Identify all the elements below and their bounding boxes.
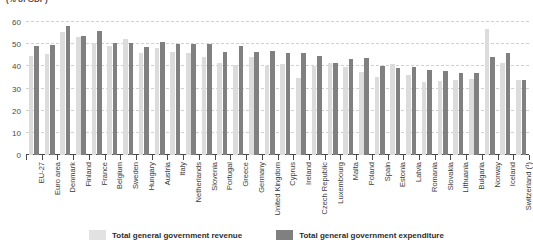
x-tick: [73, 155, 74, 160]
x-tick: [435, 155, 436, 160]
bar-group: [388, 22, 404, 155]
x-tick: [262, 155, 263, 160]
y-tick-label-50: 50: [12, 40, 21, 49]
x-axis-label: United Kingdom: [273, 109, 282, 162]
x-tick: [325, 155, 326, 160]
legend-label-expenditure: Total general government expenditure: [299, 231, 444, 240]
x-tick: [199, 155, 200, 160]
legend-swatch-expenditure: [276, 230, 293, 240]
x-tick: [246, 155, 247, 160]
y-tick-label-40: 40: [12, 62, 21, 71]
legend-item-expenditure[interactable]: Total general government expenditure: [276, 230, 444, 240]
bar-group: [167, 22, 183, 155]
x-tick: [309, 155, 310, 160]
x-tick: [372, 155, 373, 160]
x-tick: [498, 155, 499, 160]
bar-revenue: [29, 56, 34, 155]
x-tick: [183, 155, 184, 160]
y-tick-label-0: 0: [17, 151, 21, 160]
bar-group: [293, 22, 309, 155]
y-tick-label-10: 10: [12, 128, 21, 137]
x-tick: [230, 155, 231, 160]
bar-group: [26, 22, 42, 155]
x-tick: [26, 155, 27, 160]
y-tick-label-60: 60: [12, 18, 21, 27]
government-finance-bar-chart: (% of GDP) 0102030405060 EU-27Euro areaD…: [0, 0, 533, 248]
bar-group: [498, 22, 514, 155]
x-tick: [340, 155, 341, 160]
y-axis: 0102030405060: [0, 22, 24, 155]
x-tick: [152, 155, 153, 160]
x-tick: [388, 155, 389, 160]
legend-item-revenue[interactable]: Total general government revenue: [89, 230, 242, 240]
bar-revenue: [186, 53, 191, 155]
x-tick: [42, 155, 43, 160]
x-tick: [215, 155, 216, 160]
bar-group: [372, 22, 388, 155]
legend-label-revenue: Total general government revenue: [112, 231, 242, 240]
bar-expenditure: [380, 66, 385, 155]
x-tick: [482, 155, 483, 160]
x-tick: [403, 155, 404, 160]
x-axis: EU-27Euro areaDenmarkFinlandFranceBelgiu…: [26, 155, 529, 225]
x-tick: [450, 155, 451, 160]
bar-revenue: [359, 72, 364, 155]
x-tick: [105, 155, 106, 160]
x-tick: [57, 155, 58, 160]
x-tick: [136, 155, 137, 160]
bar-group: [403, 22, 419, 155]
x-tick: [120, 155, 121, 160]
x-tick: [419, 155, 420, 160]
bar-expenditure: [349, 59, 354, 155]
x-tick: [513, 155, 514, 160]
bar-expenditure: [176, 44, 181, 155]
x-tick: [167, 155, 168, 160]
x-tick: [278, 155, 279, 160]
chart-subtitle: (% of GDP): [6, 0, 48, 4]
bar-expenditure: [34, 46, 39, 155]
x-tick: [293, 155, 294, 160]
bar-expenditure: [97, 31, 102, 155]
chart-legend: Total general government revenueTotal ge…: [0, 226, 533, 244]
bar-group: [356, 22, 372, 155]
legend-swatch-revenue: [89, 230, 106, 240]
bar-revenue: [390, 64, 395, 155]
y-tick-label-30: 30: [12, 84, 21, 93]
x-tick: [529, 155, 530, 160]
bar-group: [89, 22, 105, 155]
x-tick: [466, 155, 467, 160]
x-tick: [89, 155, 90, 160]
x-tick: [356, 155, 357, 160]
y-tick-label-20: 20: [12, 106, 21, 115]
